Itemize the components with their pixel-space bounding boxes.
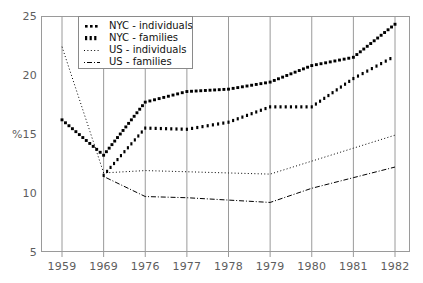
data-point bbox=[81, 136, 84, 139]
data-point bbox=[380, 34, 383, 37]
x-tick-label-1981: 1981 bbox=[333, 260, 373, 273]
data-point bbox=[255, 83, 258, 86]
legend-item-us-individuals: US - individuals bbox=[83, 44, 188, 56]
data-point bbox=[302, 67, 305, 70]
data-point bbox=[85, 139, 88, 142]
data-point bbox=[390, 26, 393, 29]
data-point bbox=[99, 151, 102, 154]
data-point bbox=[347, 57, 350, 60]
x-tick-label-1979: 1979 bbox=[250, 260, 290, 273]
legend-label-nyc-individuals: NYC - individuals bbox=[109, 20, 193, 32]
legend-item-nyc-individuals: NYC - individuals bbox=[83, 20, 188, 32]
data-point bbox=[105, 150, 108, 153]
data-point bbox=[135, 111, 138, 114]
chart-container: 25 20 15 10 5 % 195919691976197719781979… bbox=[0, 0, 423, 283]
data-point bbox=[116, 136, 119, 139]
data-point bbox=[359, 50, 362, 53]
data-point bbox=[259, 82, 262, 85]
legend-label-us-families: US - families bbox=[109, 56, 172, 68]
data-point bbox=[181, 91, 184, 94]
legend-label-us-individuals: US - individuals bbox=[109, 44, 186, 56]
data-point bbox=[310, 64, 313, 67]
data-point bbox=[111, 143, 114, 146]
data-point bbox=[269, 81, 272, 84]
data-point bbox=[376, 37, 379, 40]
x-tick-marks-group bbox=[62, 252, 395, 257]
chart-canvas bbox=[0, 0, 423, 283]
data-point bbox=[162, 96, 165, 99]
data-point bbox=[74, 130, 77, 133]
series-us-families bbox=[104, 167, 395, 202]
x-tick-label-1982: 1982 bbox=[375, 260, 415, 273]
data-point bbox=[362, 48, 365, 51]
heavy-dotted-marker-icon bbox=[83, 21, 105, 31]
data-point bbox=[88, 142, 91, 145]
data-point bbox=[185, 90, 188, 93]
data-point bbox=[383, 31, 386, 34]
data-point bbox=[366, 45, 369, 48]
data-point bbox=[246, 85, 249, 88]
data-point bbox=[320, 62, 323, 65]
data-point bbox=[236, 86, 239, 89]
data-point bbox=[127, 122, 130, 125]
data-point bbox=[195, 90, 198, 93]
data-point bbox=[329, 60, 332, 63]
fine-dotted-marker-icon bbox=[83, 45, 105, 55]
data-point bbox=[172, 94, 175, 97]
data-point bbox=[306, 66, 309, 69]
heavy-dashed-marker-icon bbox=[83, 33, 105, 43]
x-tick-label-1978: 1978 bbox=[209, 260, 249, 273]
data-point bbox=[102, 154, 105, 157]
data-point bbox=[289, 72, 292, 75]
data-point bbox=[199, 89, 202, 92]
data-point bbox=[176, 92, 179, 95]
data-point bbox=[108, 147, 111, 150]
data-point bbox=[277, 77, 280, 80]
x-tick-label-1969: 1969 bbox=[84, 260, 124, 273]
data-point bbox=[222, 88, 225, 91]
data-point bbox=[281, 76, 284, 79]
legend-item-nyc-families: NYC - families bbox=[83, 32, 188, 44]
data-point bbox=[71, 127, 74, 130]
data-point bbox=[369, 42, 372, 45]
data-point bbox=[343, 58, 346, 61]
data-point bbox=[122, 129, 125, 132]
data-point bbox=[333, 60, 336, 63]
data-point bbox=[67, 124, 70, 127]
data-point bbox=[218, 88, 221, 91]
data-point bbox=[352, 56, 355, 59]
data-point bbox=[144, 101, 147, 104]
data-point bbox=[138, 108, 141, 111]
data-point bbox=[167, 95, 170, 98]
dash-dot-marker-icon bbox=[83, 57, 105, 67]
data-point bbox=[324, 61, 327, 64]
data-point bbox=[158, 97, 161, 100]
data-point bbox=[232, 87, 235, 90]
data-point bbox=[315, 63, 318, 66]
y-tick-label-15: 15 bbox=[23, 128, 37, 141]
data-point bbox=[294, 71, 297, 74]
x-tick-label-1977: 1977 bbox=[167, 260, 207, 273]
data-point bbox=[355, 53, 358, 56]
data-point bbox=[394, 23, 397, 26]
data-point bbox=[285, 74, 288, 77]
data-point bbox=[373, 39, 376, 42]
data-point bbox=[119, 133, 122, 136]
x-tick-label-1959: 1959 bbox=[42, 260, 82, 273]
data-point bbox=[213, 89, 216, 92]
data-point bbox=[387, 28, 390, 31]
data-point bbox=[92, 145, 95, 148]
y-tick-label-10: 10 bbox=[23, 187, 37, 200]
x-tick-label-1980: 1980 bbox=[292, 260, 332, 273]
y-tick-label-25: 25 bbox=[23, 10, 37, 23]
data-point bbox=[113, 140, 116, 143]
data-point bbox=[250, 84, 253, 87]
data-point bbox=[241, 85, 244, 88]
data-point bbox=[148, 100, 151, 103]
data-point bbox=[264, 81, 267, 84]
data-point bbox=[124, 125, 127, 128]
y-tick-label-20: 20 bbox=[23, 69, 37, 82]
data-point bbox=[133, 115, 136, 118]
data-point bbox=[204, 89, 207, 92]
y-axis-label: % bbox=[12, 128, 22, 141]
